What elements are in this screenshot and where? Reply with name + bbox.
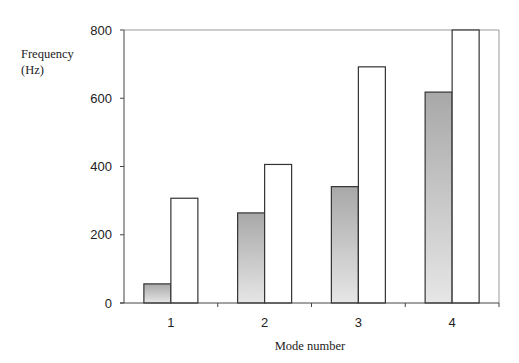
bar-mode-2-series-2	[265, 164, 292, 303]
bar-mode-1-series-2	[171, 198, 198, 303]
x-ticks: 1234	[167, 303, 499, 330]
y-ticks: 0200400600800	[90, 23, 124, 311]
bar-mode-4-series-2	[452, 30, 479, 303]
bar-mode-1-series-1	[144, 284, 171, 303]
bar-chart: 0200400600800 1234	[0, 0, 519, 363]
y-tick-label: 0	[105, 296, 112, 311]
bar-mode-3-series-1	[331, 187, 358, 303]
x-tick-label: 1	[167, 315, 174, 330]
bar-mode-3-series-2	[358, 67, 385, 303]
y-tick-label: 400	[90, 159, 112, 174]
x-tick-label: 3	[355, 315, 362, 330]
y-tick-label: 200	[90, 227, 112, 242]
bars	[144, 30, 479, 303]
bar-mode-4-series-1	[425, 92, 452, 303]
x-tick-label: 2	[261, 315, 268, 330]
x-tick-label: 4	[449, 315, 456, 330]
y-tick-label: 600	[90, 91, 112, 106]
x-axis-label: Mode number	[260, 339, 360, 354]
bar-mode-2-series-1	[238, 213, 265, 303]
y-tick-label: 800	[90, 23, 112, 38]
